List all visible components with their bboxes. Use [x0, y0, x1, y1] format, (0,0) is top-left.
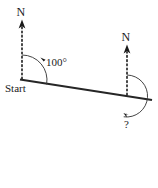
start-label: Start	[5, 82, 26, 94]
angle-label-100: 100°	[46, 56, 67, 68]
travel-line	[20, 80, 152, 101]
bearing-diagram-canvas: N N 100° ? Start	[0, 0, 158, 188]
bearing-diagram-svg: N N 100° ? Start	[0, 0, 158, 188]
angle-label-unknown: ?	[124, 118, 129, 130]
north-label-left: N	[17, 5, 26, 19]
angle-arc-start-arrowhead-icon	[40, 58, 45, 63]
north-label-right: N	[122, 30, 131, 44]
